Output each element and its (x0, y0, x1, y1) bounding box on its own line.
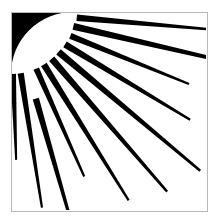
artboard (0, 0, 218, 222)
sunburst-image (0, 0, 218, 222)
